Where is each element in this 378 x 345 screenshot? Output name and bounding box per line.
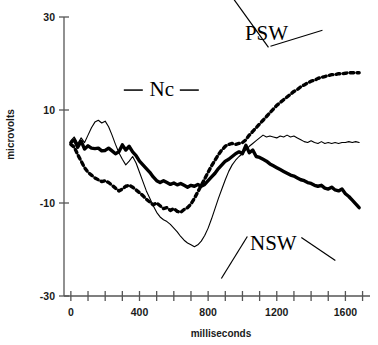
y-tick-label: -30 xyxy=(40,290,55,302)
y-tick-label: 10 xyxy=(43,104,55,116)
y-axis-title: microvolts xyxy=(5,109,16,160)
nsw-leader-left xyxy=(221,237,247,279)
annotation-nc: Nc xyxy=(150,77,175,101)
x-axis-title: milliseconds xyxy=(191,328,252,339)
x-tick-label: 0 xyxy=(68,306,74,318)
x-tick-label: 400 xyxy=(131,306,149,318)
y-tick-label: 30 xyxy=(43,11,55,23)
annotation-nsw: NSW xyxy=(250,231,297,255)
thin-solid-trace xyxy=(71,120,359,246)
thick-solid-trace xyxy=(71,140,359,208)
chart-canvas: 3010-10-30040080012001600millisecondsmic… xyxy=(0,0,378,345)
x-tick-label: 1600 xyxy=(334,306,358,318)
x-tick-label: 1200 xyxy=(265,306,289,318)
annotation-psw: PSW xyxy=(245,21,288,45)
erp-waveform-figure: 3010-10-30040080012001600millisecondsmic… xyxy=(0,0,378,345)
x-tick-label: 800 xyxy=(199,306,217,318)
nsw-leader-right xyxy=(301,238,335,261)
y-tick-label: -10 xyxy=(40,197,55,209)
